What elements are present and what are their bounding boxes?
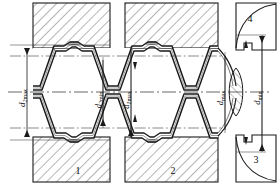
block-upper-right bbox=[125, 3, 218, 48]
centerlines bbox=[8, 56, 272, 128]
detail-body-4 bbox=[236, 3, 276, 50]
callout-part-4: 4 bbox=[248, 13, 253, 24]
callout-part-3: 3 bbox=[254, 154, 259, 165]
arrowhead-root-upper bbox=[133, 62, 137, 70]
block-lower-left bbox=[33, 137, 110, 182]
label-d2min: d2min bbox=[93, 92, 104, 109]
arrowhead-root-lower bbox=[133, 114, 137, 122]
label-dmin: dmin bbox=[252, 91, 263, 105]
label-dmax: dmax bbox=[215, 91, 226, 106]
callout-part-2: 2 bbox=[171, 165, 176, 176]
callout-part-1: 1 bbox=[76, 165, 81, 176]
drawing-canvas: d2max d2min d1max dmax dmin 1 2 3 bbox=[0, 0, 278, 185]
arrowhead-d2max-top bbox=[24, 48, 30, 55]
technical-drawing-svg: d2max d2min d1max dmax dmin 1 2 3 bbox=[0, 0, 278, 185]
arrowhead-d2max-bottom bbox=[24, 130, 30, 137]
thread-profile-upper bbox=[33, 42, 218, 90]
